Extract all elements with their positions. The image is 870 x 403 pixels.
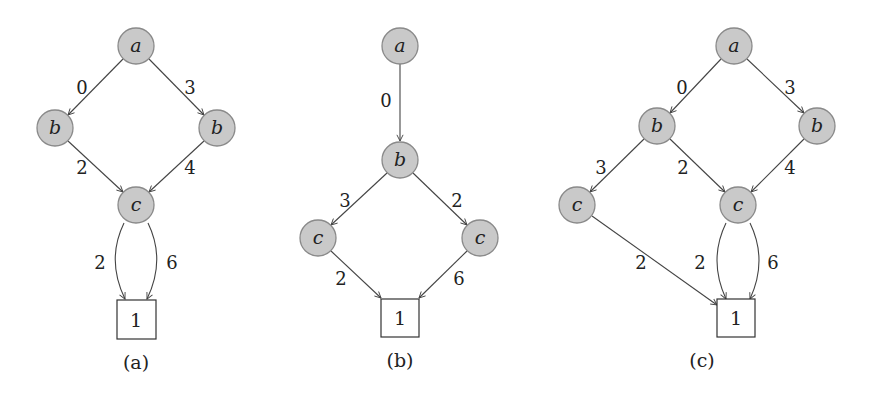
decision-diagram-figure: 0 3 2 4 2 6 a b b c 1 (a) 0 3 2 2 6 bbox=[0, 0, 870, 403]
svg-text:1: 1 bbox=[394, 307, 406, 329]
node-a: a bbox=[118, 28, 154, 64]
node-b-left: b bbox=[37, 110, 73, 146]
svg-text:b: b bbox=[49, 116, 61, 138]
edge-a-b-right bbox=[149, 59, 204, 115]
svg-text:c: c bbox=[131, 193, 142, 215]
svg-text:b: b bbox=[394, 148, 406, 170]
node-a: a bbox=[716, 28, 752, 64]
edge-label: 4 bbox=[184, 157, 195, 178]
node-a: a bbox=[382, 28, 418, 64]
terminal-node-1: 1 bbox=[117, 300, 156, 339]
edge-label: 0 bbox=[676, 77, 687, 98]
edge-label: 6 bbox=[166, 252, 177, 273]
edge-label: 2 bbox=[94, 252, 105, 273]
svg-text:b: b bbox=[651, 114, 663, 136]
edge-label: 0 bbox=[76, 77, 87, 98]
edge-label: 2 bbox=[694, 252, 705, 273]
svg-text:a: a bbox=[394, 34, 405, 56]
node-b: b bbox=[382, 142, 418, 178]
svg-text:1: 1 bbox=[730, 307, 742, 329]
edge-label: 4 bbox=[784, 157, 795, 178]
node-c-left: c bbox=[559, 187, 595, 223]
svg-text:c: c bbox=[733, 193, 744, 215]
edge-c-mid-1-low bbox=[717, 223, 726, 299]
edge-label: 3 bbox=[339, 190, 350, 211]
edge-label: 0 bbox=[380, 90, 391, 111]
terminal-node-1: 1 bbox=[717, 299, 755, 337]
edge-label: 3 bbox=[595, 157, 606, 178]
edge-c-1-high bbox=[147, 223, 157, 299]
edge-c-1-low bbox=[115, 223, 125, 299]
node-c-mid: c bbox=[720, 187, 756, 223]
edge-label: 2 bbox=[677, 157, 688, 178]
svg-text:c: c bbox=[313, 226, 324, 248]
edge-label: 2 bbox=[76, 157, 87, 178]
edge-label: 3 bbox=[784, 77, 795, 98]
edge-b-right-c-mid bbox=[751, 139, 804, 192]
edge-label: 3 bbox=[184, 77, 195, 98]
edge-label: 6 bbox=[767, 252, 778, 273]
edge-label: 6 bbox=[453, 268, 464, 289]
caption-a: (a) bbox=[123, 351, 149, 373]
svg-text:b: b bbox=[811, 114, 823, 136]
terminal-node-1: 1 bbox=[381, 299, 419, 337]
subfigure-c: 0 3 3 2 4 2 2 6 a b b c c 1 (c) bbox=[559, 28, 835, 371]
node-c-left: c bbox=[300, 220, 336, 256]
svg-text:1: 1 bbox=[130, 309, 142, 331]
edge-label: 2 bbox=[451, 190, 462, 211]
node-c-right: c bbox=[462, 220, 498, 256]
edge-label: 2 bbox=[335, 268, 346, 289]
svg-text:b: b bbox=[211, 116, 223, 138]
node-c: c bbox=[118, 187, 154, 223]
node-b-right: b bbox=[799, 108, 835, 144]
node-b-left: b bbox=[639, 108, 675, 144]
edge-b-right-c bbox=[149, 141, 204, 192]
svg-text:a: a bbox=[130, 34, 141, 56]
subfigure-b: 0 3 2 2 6 a b c c 1 (b) bbox=[300, 28, 498, 371]
svg-text:a: a bbox=[728, 34, 739, 56]
caption-c: (c) bbox=[689, 349, 714, 371]
subfigure-a: 0 3 2 4 2 6 a b b c 1 (a) bbox=[37, 28, 235, 373]
caption-b: (b) bbox=[387, 349, 414, 371]
svg-text:c: c bbox=[475, 226, 486, 248]
svg-text:c: c bbox=[572, 193, 583, 215]
edge-label: 2 bbox=[635, 252, 646, 273]
edge-c-mid-1-high bbox=[750, 223, 759, 299]
node-b-right: b bbox=[199, 110, 235, 146]
